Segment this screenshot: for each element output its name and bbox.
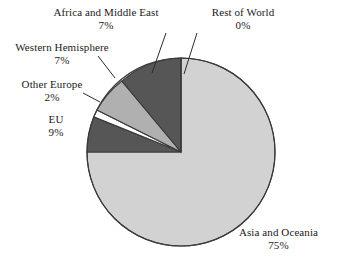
label-other-europe-name: Other Europe [4, 78, 100, 91]
label-africa-and-middle-east: Africa and Middle East 7% [32, 6, 180, 31]
label-eu-name: EU [26, 113, 86, 126]
label-western-hemisphere-value: 7% [0, 54, 124, 67]
label-other-europe: Other Europe 2% [4, 78, 100, 103]
label-eu-value: 9% [26, 126, 86, 139]
label-rest-of-world-name: Rest of World [196, 6, 290, 19]
label-eu: EU 9% [26, 113, 86, 138]
label-asia-and-oceania-value: 75% [221, 239, 336, 252]
label-other-europe-value: 2% [4, 91, 100, 104]
label-africa-and-middle-east-value: 7% [32, 19, 180, 32]
label-western-hemisphere-name: Western Hemisphere [0, 41, 124, 54]
label-asia-and-oceania: Asia and Oceania 75% [221, 226, 336, 251]
pie-chart-figure: Africa and Middle East 7% Rest of World … [0, 0, 339, 264]
label-asia-and-oceania-name: Asia and Oceania [221, 226, 336, 239]
label-rest-of-world: Rest of World 0% [196, 6, 290, 31]
label-rest-of-world-value: 0% [196, 19, 290, 32]
label-africa-and-middle-east-name: Africa and Middle East [32, 6, 180, 19]
label-western-hemisphere: Western Hemisphere 7% [0, 41, 124, 66]
